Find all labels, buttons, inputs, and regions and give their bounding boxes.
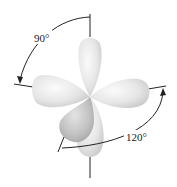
axis-left [14,84,33,87]
arrowhead-90 [17,76,23,84]
lobe-top [78,38,101,97]
angle-label-120: 120° [126,131,147,143]
lobe-right [90,79,150,108]
axis-front-lower-left [58,137,64,152]
angle-label-90: 90° [34,32,49,44]
arrowhead-120 [160,88,166,96]
lobe-left [32,75,90,107]
orbital-diagram: 90° 120° [0,0,177,187]
axis-right [148,86,166,89]
